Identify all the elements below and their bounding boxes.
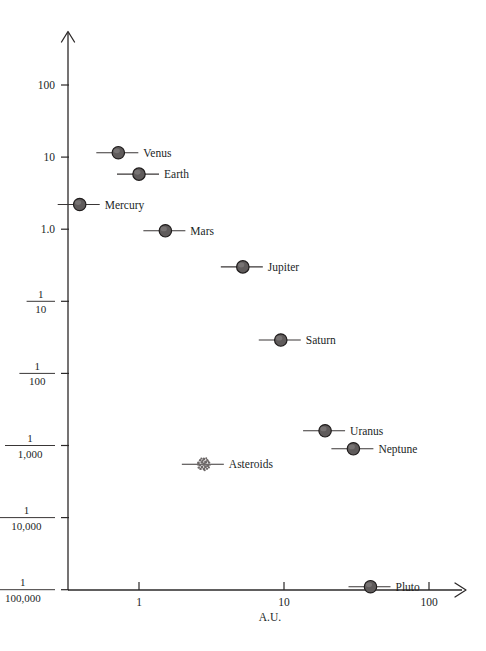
data-point-label: Pluto [396, 581, 421, 593]
data-point-asteroids[interactable]: Asteroids [182, 457, 274, 471]
data-point-neptune[interactable]: Neptune [331, 443, 417, 456]
data-point-label: Asteroids [229, 458, 274, 470]
data-point-mercury[interactable]: Mercury [58, 198, 145, 211]
data-point-saturn[interactable]: Saturn [259, 334, 336, 346]
solar-system-scatter-chart: 100101.0110110011,000110,0001100,0001101… [0, 0, 486, 651]
marker-highlight [114, 148, 120, 153]
marker-highlight [366, 582, 372, 587]
y-axis-ticks-group: 100101.0110110011,000110,0001100,000 [0, 79, 69, 604]
marker-highlight [134, 170, 140, 175]
y-tick-label: 1.0 [41, 223, 56, 235]
data-point-label: Uranus [350, 425, 384, 437]
y-tick-fraction-numerator: 1 [20, 576, 26, 588]
y-tick-fraction-numerator: 1 [27, 432, 33, 444]
x-tick-label: 1 [136, 596, 142, 608]
data-point-label: Saturn [306, 334, 336, 346]
data-point-earth[interactable]: Earth [117, 168, 189, 180]
marker-highlight [276, 336, 282, 341]
data-points-group: MercuryVenusEarthMarsAsteroidsJupiterSat… [58, 147, 420, 593]
data-point-venus[interactable]: Venus [96, 147, 172, 159]
axes-group [62, 32, 467, 598]
y-tick-fraction-numerator: 1 [38, 288, 44, 300]
chart-canvas: 100101.0110110011,000110,0001100,0001101… [0, 0, 486, 651]
y-tick-label: 100 [38, 79, 56, 91]
y-tick-fraction-denominator: 10,000 [11, 520, 42, 532]
x-axis-ticks-group: 110100 [136, 582, 438, 608]
x-tick-label: 100 [420, 596, 438, 608]
data-point-label: Mercury [105, 199, 145, 212]
y-tick-label: 10 [44, 151, 56, 163]
data-point-label: Mars [190, 225, 214, 237]
marker-highlight [75, 200, 81, 205]
data-point-uranus[interactable]: Uranus [303, 425, 384, 437]
marker-highlight [238, 263, 244, 268]
data-point-label: Venus [143, 147, 172, 159]
x-axis-title: A.U. [259, 611, 281, 623]
marker-highlight [349, 444, 355, 449]
x-tick-label: 10 [278, 596, 290, 608]
y-tick-fraction-denominator: 100 [29, 375, 46, 387]
y-tick-fraction-denominator: 100,000 [5, 592, 41, 604]
data-point-label: Jupiter [268, 261, 299, 274]
marker-highlight [320, 426, 326, 431]
y-tick-fraction-denominator: 1,000 [18, 448, 43, 460]
y-tick-fraction-denominator: 10 [35, 303, 47, 315]
y-tick-fraction-numerator: 1 [34, 360, 40, 372]
data-point-label: Earth [164, 168, 189, 180]
data-point-mars[interactable]: Mars [143, 225, 214, 237]
data-point-label: Neptune [378, 443, 417, 456]
marker-highlight [161, 227, 167, 232]
data-point-jupiter[interactable]: Jupiter [221, 261, 299, 274]
y-tick-fraction-numerator: 1 [24, 504, 30, 516]
data-point-pluto[interactable]: Pluto [349, 581, 421, 593]
